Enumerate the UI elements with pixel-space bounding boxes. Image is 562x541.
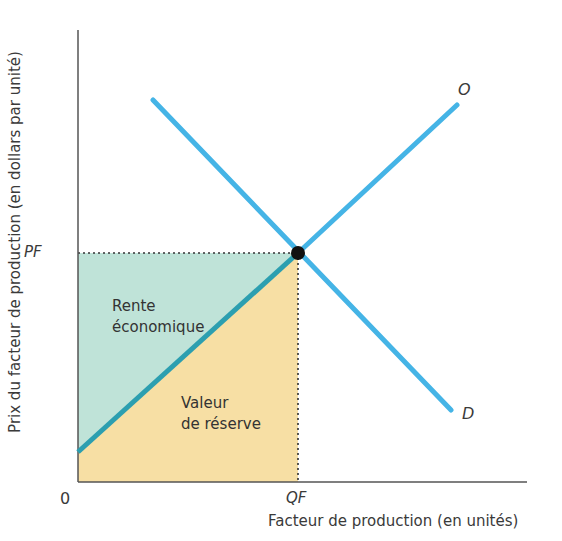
reserve-value-label-line1: Valeur [181,393,261,414]
economic-rent-label: Rente économique [112,296,204,338]
reserve-value-label: Valeur de réserve [181,393,261,435]
supply-curve-label: O [458,80,471,99]
demand-curve-label: D [462,404,474,423]
y-axis-label: Prix du facteur de production (en dollar… [6,2,24,482]
economic-rent-label-line2: économique [112,317,204,338]
pf-tick-label: PF [24,243,42,261]
qf-tick-label: QF [286,489,306,507]
economic-rent-label-line1: Rente [112,296,204,317]
origin-label: 0 [60,489,70,508]
supply-curve-upper [298,105,457,253]
equilibrium-point [291,246,305,260]
x-axis-label: Facteur de production (en unités) [268,512,518,530]
reserve-value-label-line2: de réserve [181,414,261,435]
chart-canvas [0,0,562,541]
